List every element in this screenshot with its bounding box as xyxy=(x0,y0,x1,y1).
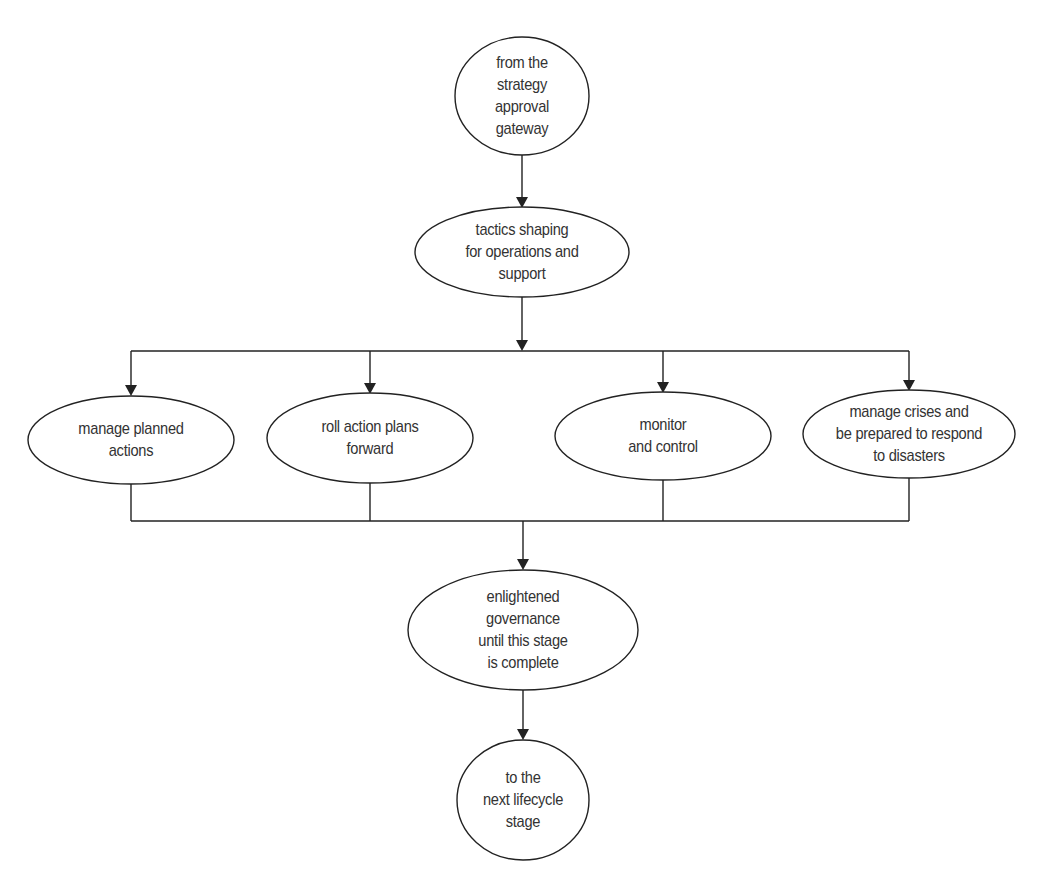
node-crises-label: manage crises and be prepared to respond… xyxy=(824,401,994,467)
node-planned-label: manage planned actions xyxy=(70,418,192,462)
arrowhead-icon xyxy=(516,340,528,351)
arrowhead-icon xyxy=(517,729,529,740)
node-roll-label: roll action plans forward xyxy=(313,416,426,460)
arrowhead-icon xyxy=(125,385,137,396)
node-start-label: from the strategy approval gateway xyxy=(491,52,554,140)
node-monitor-label: monitor and control xyxy=(623,414,704,458)
node-governance-label: enlightened governance until this stage … xyxy=(471,586,575,674)
arrowhead-icon xyxy=(517,559,529,570)
node-end-label: to the next lifecycle stage xyxy=(476,767,569,833)
node-tactics-label: tactics shaping for operations and suppo… xyxy=(456,219,588,285)
